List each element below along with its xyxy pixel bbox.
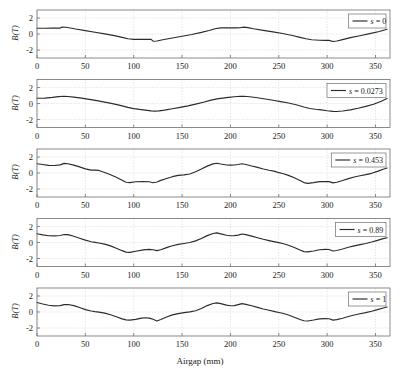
x-tick-label: 150 (176, 339, 189, 349)
x-tick-label: 0 (35, 200, 39, 210)
y-tick-label: 2 (29, 222, 33, 232)
data-series-line (37, 96, 387, 111)
legend-label: s = 1 (371, 295, 387, 304)
x-tick-label: 250 (272, 270, 285, 280)
legend-2: s = 0.453 (331, 153, 386, 167)
figure-canvas: -202050100150200250300350s = 0B(T)-20205… (0, 0, 400, 374)
data-series-line (37, 27, 387, 41)
axes-frame (37, 149, 390, 197)
x-tick-label: 300 (321, 131, 334, 141)
x-tick-label: 250 (272, 339, 285, 349)
x-tick-label: 300 (321, 61, 334, 71)
x-tick-label: 0 (35, 131, 39, 141)
y-tick-label: 2 (29, 83, 33, 93)
x-tick-label: 100 (127, 200, 140, 210)
x-tick-label: 150 (176, 61, 189, 71)
y-tick-label: -2 (26, 323, 33, 333)
x-tick-label: 100 (127, 131, 140, 141)
x-tick-label: 150 (176, 131, 189, 141)
x-tick-label: 300 (321, 339, 334, 349)
x-tick-label: 50 (81, 61, 90, 71)
legend-4: s = 1 (349, 292, 387, 306)
x-tick-label: 350 (369, 270, 382, 280)
y-tick-label: -2 (26, 45, 33, 55)
y-tick-label: 2 (29, 152, 33, 162)
legend-box (331, 153, 386, 167)
x-tick-label: 200 (224, 61, 237, 71)
x-tick-label: 200 (224, 339, 237, 349)
plot-background (37, 149, 390, 197)
legend-0: s = 0 (349, 14, 387, 28)
data-series-line (37, 163, 387, 183)
x-tick-label: 50 (81, 270, 90, 280)
x-tick-label: 0 (35, 61, 39, 71)
y-tick-label: 2 (29, 13, 33, 23)
x-tick-label: 250 (272, 61, 285, 71)
y-tick-label: -2 (26, 184, 33, 194)
y-tick-label: 2 (29, 291, 33, 301)
data-series-line (37, 233, 387, 253)
x-tick-label: 100 (127, 339, 140, 349)
axes-frame (37, 288, 390, 336)
plot-background (37, 288, 390, 336)
x-tick-label: 0 (35, 339, 39, 349)
plot-background (37, 80, 390, 128)
x-tick-label: 200 (224, 131, 237, 141)
y-axis-label-1: B(T) (10, 83, 20, 123)
plot-background (37, 10, 390, 58)
legend-3: s = 0.89 (336, 223, 386, 237)
x-tick-label: 50 (81, 200, 90, 210)
legend-label: s = 0.453 (353, 156, 383, 165)
y-tick-label: -2 (26, 254, 33, 264)
y-axis-label-3: B(T) (10, 222, 20, 262)
y-tick-label: 0 (29, 99, 33, 109)
x-tick-label: 350 (369, 131, 382, 141)
x-tick-label: 350 (369, 200, 382, 210)
x-tick-label: 250 (272, 131, 285, 141)
y-tick-label: 0 (29, 29, 33, 39)
legend-label: s = 0 (371, 17, 387, 26)
legend-box (349, 292, 387, 306)
x-tick-label: 200 (224, 270, 237, 280)
x-tick-label: 350 (369, 61, 382, 71)
data-series-line (37, 303, 387, 321)
y-tick-label: 0 (29, 168, 33, 178)
x-tick-label: 50 (81, 339, 90, 349)
axes-frame (37, 80, 390, 128)
axes-frame (37, 219, 390, 267)
legend-label: s = 0.89 (358, 226, 384, 235)
x-tick-label: 300 (321, 270, 334, 280)
x-tick-label: 50 (81, 131, 90, 141)
y-axis-label-4: B(T) (10, 291, 20, 331)
y-tick-label: 0 (29, 307, 33, 317)
plot-background (37, 219, 390, 267)
legend-1: s = 0.0273 (327, 84, 386, 98)
legend-box (349, 14, 387, 28)
x-tick-label: 350 (369, 339, 382, 349)
x-tick-label: 250 (272, 200, 285, 210)
y-axis-label-0: B(T) (10, 13, 20, 53)
y-tick-label: 0 (29, 238, 33, 248)
legend-label: s = 0.0273 (349, 87, 383, 96)
x-tick-label: 100 (127, 61, 140, 71)
legend-box (327, 84, 386, 98)
x-tick-label: 200 (224, 200, 237, 210)
x-axis-label: Airgap (mm) (0, 356, 400, 366)
x-tick-label: 0 (35, 270, 39, 280)
y-tick-label: -2 (26, 115, 33, 125)
x-tick-label: 300 (321, 200, 334, 210)
legend-box (336, 223, 386, 237)
y-axis-label-2: B(T) (10, 152, 20, 192)
x-tick-label: 150 (176, 200, 189, 210)
x-tick-label: 100 (127, 270, 140, 280)
x-tick-label: 150 (176, 270, 189, 280)
axes-frame (37, 10, 390, 58)
